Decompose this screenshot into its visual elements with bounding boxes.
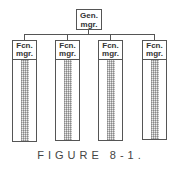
gen-mgr-box: Gen. mgr.: [76, 9, 102, 30]
shaded-bar: [21, 60, 29, 141]
shaded-bar: [151, 60, 159, 139]
connector-horizontal: [24, 34, 155, 35]
fcn-mgr-column-4: Fcn. mgr.: [142, 40, 167, 140]
fcn-mgr-column-1: Fcn. mgr.: [12, 40, 37, 142]
fcn-mgr-header: Fcn. mgr.: [99, 41, 122, 60]
fcn-mgr-header: Fcn. mgr.: [13, 41, 36, 60]
gen-mgr-line1: Gen.: [77, 12, 101, 20]
fcn-mgr-line2: mgr.: [143, 50, 166, 58]
fcn-mgr-column-3: Fcn. mgr.: [98, 40, 123, 141]
fcn-mgr-line2: mgr.: [56, 50, 79, 58]
fcn-mgr-header: Fcn. mgr.: [143, 41, 166, 60]
gen-mgr-line2: mgr.: [77, 21, 101, 29]
fcn-mgr-column-2: Fcn. mgr.: [55, 40, 80, 141]
figure-caption: FIGURE 8-1.: [0, 149, 182, 161]
shaded-bar: [64, 60, 72, 140]
shaded-bar: [107, 60, 115, 140]
fcn-mgr-line2: mgr.: [13, 50, 36, 58]
fcn-mgr-line2: mgr.: [99, 50, 122, 58]
fcn-mgr-header: Fcn. mgr.: [56, 41, 79, 60]
